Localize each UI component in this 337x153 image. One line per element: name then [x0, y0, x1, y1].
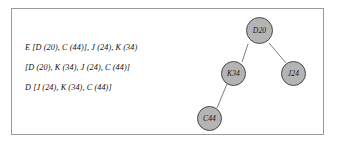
tree-node-d20[interactable]: D20 [246, 17, 273, 44]
derivation-step-line: [D (20), K (34), J (24), C (44)] [25, 58, 190, 78]
tree-diagram: D20 K34 J24 C44 [180, 8, 324, 135]
tree-node-label: D20 [253, 27, 266, 35]
tree-node-k34[interactable]: K34 [221, 61, 246, 86]
tree-node-label: C44 [203, 115, 216, 123]
derivation-step-list: E [D (20), C (44)], J (24), K (34) [D (2… [25, 38, 190, 98]
tree-edge-d20-j24 [269, 43, 286, 63]
figure-root: E [D (20), C (44)], J (24), K (34) [D (2… [0, 0, 337, 153]
derivation-step-line: D [J (24), K (34), C (44)] [25, 78, 190, 98]
tree-node-j24[interactable]: J24 [281, 61, 306, 86]
tree-node-label: J24 [288, 70, 299, 78]
tree-node-label: K34 [227, 70, 240, 78]
derivation-step-line: E [D (20), C (44)], J (24), K (34) [25, 38, 190, 58]
tree-edge-d20-k34 [242, 44, 248, 62]
tree-node-c44[interactable]: C44 [197, 106, 222, 131]
tree-edge-k34-c44 [217, 84, 227, 108]
